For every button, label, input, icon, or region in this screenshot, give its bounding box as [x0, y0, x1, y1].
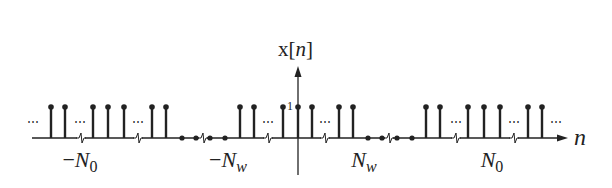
stem	[280, 104, 286, 138]
stem	[525, 104, 531, 138]
zero-sample-dot	[222, 135, 227, 140]
axis-break-icon	[133, 133, 143, 143]
axis-break-icon	[509, 133, 519, 143]
ellipsis: ⋯	[132, 115, 144, 129]
stem	[336, 104, 342, 138]
stem	[251, 104, 257, 138]
ellipsis: ⋯	[550, 115, 562, 129]
marker-neg-Nw: −Nw	[209, 147, 247, 175]
stem	[149, 104, 155, 138]
axis-break-icon	[198, 133, 208, 143]
ellipsis: ⋯	[319, 115, 331, 129]
stem	[105, 104, 111, 138]
stem	[437, 104, 443, 138]
stem	[539, 104, 545, 138]
stem	[237, 104, 243, 138]
stem	[309, 104, 315, 138]
axis-break-icon	[263, 133, 273, 143]
ellipsis: ⋯	[74, 115, 86, 129]
signal-diagram: ⋯⋯⋯⋯⋯⋯⋯⋯ x[n] n 1 −N0−NwNwN0	[0, 0, 612, 188]
x-axis-label: n	[574, 124, 586, 150]
marker-pos-N0: N0	[480, 147, 504, 175]
ellipsis: ⋯	[508, 115, 520, 129]
stem	[465, 104, 471, 138]
unit-tick-label: 1	[287, 99, 293, 113]
stem	[48, 104, 54, 138]
zero-sample-dot	[409, 135, 414, 140]
x-axis-arrow-icon	[557, 135, 568, 142]
axis-break-icon	[76, 133, 86, 143]
zero-sample-dot	[365, 135, 370, 140]
y-axis-arrow-icon	[295, 66, 302, 77]
stem	[121, 104, 127, 138]
axis-break-icon	[320, 133, 330, 143]
stem	[350, 104, 356, 138]
marker-pos-Nw: Nw	[350, 147, 377, 175]
stem	[62, 104, 68, 138]
stem	[295, 104, 301, 138]
zero-sample-dot	[207, 135, 212, 140]
y-axis-label: x[n]	[278, 37, 313, 61]
index-markers: −N0−NwNwN0	[62, 147, 503, 175]
ellipsis: ⋯	[262, 115, 274, 129]
stem	[423, 104, 429, 138]
ellipsis: ⋯	[450, 115, 462, 129]
axis-break-icon	[384, 133, 394, 143]
ellipsis: ⋯	[27, 115, 39, 129]
stem	[90, 104, 96, 138]
stem	[163, 104, 169, 138]
stem	[497, 104, 503, 138]
zero-sample-dot	[394, 135, 399, 140]
marker-neg-N0: −N0	[62, 147, 97, 175]
zero-sample-dot	[179, 135, 184, 140]
stem	[481, 104, 487, 138]
zero-sample-dot	[379, 135, 384, 140]
zero-sample-dot	[193, 135, 198, 140]
stems	[48, 104, 545, 138]
axis-break-icon	[451, 133, 461, 143]
